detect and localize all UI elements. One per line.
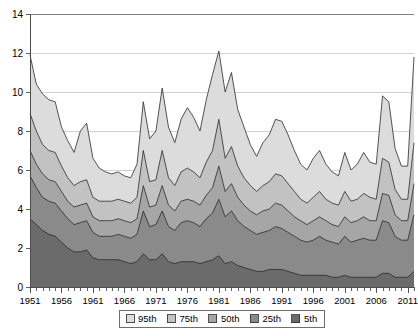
y-axis: 02468101214 [12,9,30,293]
x-tick-label: 2006 [366,295,387,306]
chart-canvas: 0246810121419511956196119661971197619811… [0,0,418,336]
legend-swatch-5th [292,315,300,323]
legend-label-50th: 50th [221,313,240,324]
percentile-area-chart: 0246810121419511956196119661971197619811… [0,0,418,336]
legend-swatch-95th [126,315,134,323]
x-tick-label: 1996 [303,295,324,306]
x-tick-label: 2011 [397,295,417,306]
x-tick-label: 1971 [145,295,166,306]
legend-label-95th: 95th [138,313,157,324]
legend-swatch-25th [250,315,258,323]
y-tick-label: 4 [17,204,23,215]
x-tick-label: 1981 [208,295,229,306]
x-tick-label: 1951 [19,295,40,306]
y-tick-label: 2 [17,243,23,254]
y-tick-label: 8 [17,126,23,137]
x-tick-label: 1986 [240,295,261,306]
y-tick-label: 0 [17,282,23,293]
legend-label-5th: 5th [304,313,317,324]
x-tick-label: 1991 [271,295,292,306]
y-tick-label: 10 [12,87,24,98]
legend: 95th75th50th25th5th [120,311,325,328]
legend-swatch-50th [209,315,217,323]
y-tick-label: 12 [12,48,24,59]
x-tick-label: 1956 [51,295,72,306]
legend-swatch-75th [167,315,175,323]
legend-label-25th: 25th [262,313,281,324]
area-bands [30,51,414,287]
x-tick-label: 1976 [177,295,198,306]
y-tick-label: 14 [12,9,24,20]
x-tick-label: 1966 [114,295,135,306]
x-tick-label: 2001 [334,295,355,306]
x-tick-label: 1961 [82,295,103,306]
legend-label-75th: 75th [179,313,198,324]
y-tick-label: 6 [17,165,23,176]
